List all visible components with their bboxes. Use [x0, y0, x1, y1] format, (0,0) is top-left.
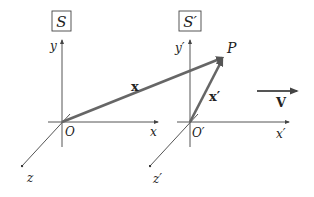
y-axis-label: y	[49, 39, 57, 53]
vector-x	[62, 58, 222, 122]
frame-s-title: S	[56, 13, 66, 31]
vector-x-prime-label: x′	[209, 89, 221, 104]
frame-s-prime-title: S′	[183, 13, 197, 31]
z-prime-axis-label: z′	[152, 172, 162, 186]
velocity: V	[257, 91, 297, 110]
position-vectors: x x′ P	[62, 40, 237, 122]
origin-label: O	[65, 125, 75, 139]
point-p-label: P	[226, 40, 237, 56]
z-axis-label: z	[26, 171, 34, 185]
velocity-label: V	[275, 95, 287, 110]
y-prime-axis-label: y′	[174, 41, 185, 55]
x-prime-axis-label: x′	[276, 127, 286, 141]
vector-x-label: x	[131, 79, 139, 94]
frame-s: S y x z O	[22, 11, 158, 185]
x-axis-label: x	[150, 125, 157, 139]
reference-frames-diagram: S y x z O S′ y′ x′ z′ O′ x x′ P V	[0, 0, 314, 197]
origin-prime-label: O′	[192, 126, 205, 140]
